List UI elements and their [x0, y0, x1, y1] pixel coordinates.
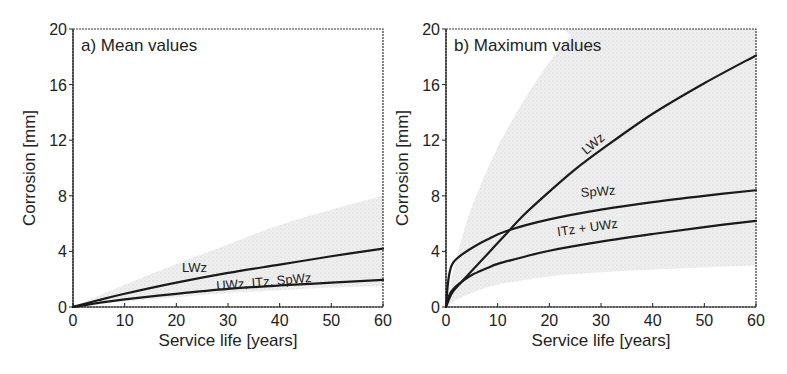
- panel-title: b) Maximum values: [454, 36, 601, 55]
- y-tick-label: 20: [49, 21, 67, 38]
- x-tick-label: 10: [116, 312, 134, 329]
- x-tick-label: 20: [540, 312, 558, 329]
- x-tick-label: 60: [747, 312, 765, 329]
- y-tick-label: 16: [422, 77, 440, 94]
- y-tick-label: 0: [431, 299, 440, 316]
- y-tick-label: 8: [58, 188, 67, 205]
- x-tick-label: 40: [644, 312, 662, 329]
- panel-maximum-values: 0102030405060048121620Service life [year…: [393, 21, 765, 350]
- x-tick-label: 60: [374, 312, 392, 329]
- y-tick-label: 4: [431, 243, 440, 260]
- panel-title: a) Mean values: [81, 36, 197, 55]
- x-tick-label: 40: [271, 312, 289, 329]
- y-tick-label: 16: [49, 77, 67, 94]
- x-tick-label: 0: [69, 312, 78, 329]
- x-tick-label: 0: [442, 312, 451, 329]
- y-tick-label: 20: [422, 21, 440, 38]
- y-tick-label: 12: [422, 132, 440, 149]
- chart-canvas: 0102030405060048121620Service life [year…: [0, 0, 787, 374]
- y-tick-label: 0: [58, 299, 67, 316]
- y-axis-label: Corrosion [mm]: [393, 110, 412, 226]
- x-axis-label: Service life [years]: [159, 331, 298, 350]
- x-axis-label: Service life [years]: [532, 331, 671, 350]
- y-tick-label: 4: [58, 243, 67, 260]
- x-tick-label: 50: [322, 312, 340, 329]
- x-tick-label: 20: [167, 312, 185, 329]
- y-tick-label: 8: [431, 188, 440, 205]
- y-tick-label: 12: [49, 132, 67, 149]
- y-axis-label: Corrosion [mm]: [20, 110, 39, 226]
- curve-label: SpWz: [580, 183, 616, 200]
- x-tick-label: 30: [219, 312, 237, 329]
- corrosion-figure: 0102030405060048121620Service life [year…: [0, 0, 787, 374]
- x-tick-label: 10: [489, 312, 507, 329]
- x-tick-label: 50: [695, 312, 713, 329]
- curve-label: LWz: [182, 260, 207, 275]
- x-tick-label: 30: [592, 312, 610, 329]
- panel-mean-values: 0102030405060048121620Service life [year…: [20, 21, 392, 350]
